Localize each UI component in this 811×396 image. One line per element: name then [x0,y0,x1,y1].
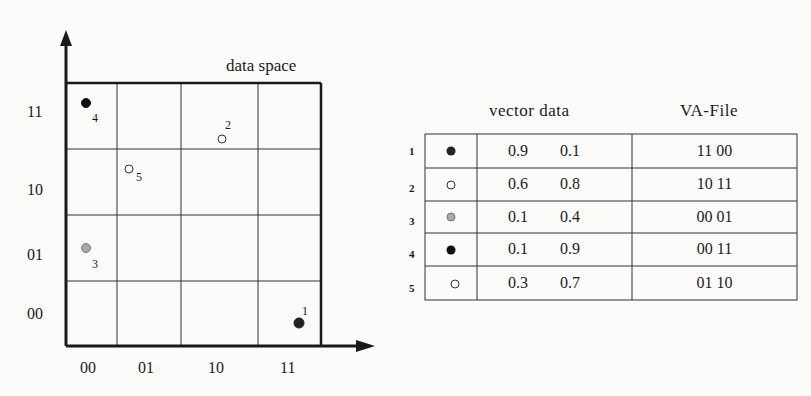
data-space-title: data space [226,57,296,74]
point-3-icon [82,244,91,253]
cell-va: 10 11 [632,176,797,192]
row-1-dot-icon [447,147,456,156]
x-label-01: 01 [138,360,154,376]
cell-v2: 0.1 [560,143,580,159]
cell-v2: 0.4 [560,209,580,225]
row-4-dot-icon [447,246,456,255]
point-2-label: 2 [225,119,231,131]
axes [66,44,360,346]
row-number: 3 [409,216,415,227]
row-2-dot-icon [447,181,455,189]
row-number: 1 [409,146,415,157]
y-label-00: 00 [27,306,43,322]
header-va-file: VA-File [680,102,738,119]
cell-v1: 0.9 [508,143,528,159]
x-label-00: 00 [80,360,96,376]
cell-v2: 0.9 [560,241,580,257]
cell-va: 01 10 [632,275,797,291]
x-axis-arrow-icon [356,340,375,352]
cell-v2: 0.7 [560,275,580,291]
point-1-icon [294,318,304,328]
cell-v1: 0.3 [508,275,528,291]
cell-va: 00 01 [632,209,797,225]
x-label-10: 10 [208,360,224,376]
y-label-01: 01 [27,247,43,263]
y-label-11: 11 [27,104,42,120]
header-vector-data: vector data [489,102,570,119]
row-5-dot-icon [451,280,459,288]
cell-v1: 0.1 [508,241,528,257]
row-3-dot-icon [447,213,455,221]
point-1-label: 1 [302,305,308,317]
data-space-diagram [0,0,811,396]
cell-v1: 0.1 [508,209,528,225]
row-number: 2 [409,183,415,194]
x-label-11: 11 [280,360,295,376]
cell-va: 00 11 [632,241,797,257]
row-number: 5 [409,283,415,294]
y-axis-arrow-icon [60,30,72,46]
point-4-icon [82,99,91,108]
cell-v2: 0.8 [560,176,580,192]
row-number: 4 [409,249,415,260]
point-4-label: 4 [92,112,98,124]
point-2-icon [218,135,226,143]
grid-lines [66,83,321,346]
cell-va: 11 00 [632,143,797,159]
point-5-icon [125,165,133,173]
point-5-label: 5 [136,171,142,183]
cell-v1: 0.6 [508,176,528,192]
y-label-10: 10 [27,182,43,198]
point-3-label: 3 [92,258,98,270]
